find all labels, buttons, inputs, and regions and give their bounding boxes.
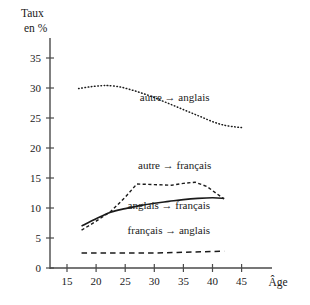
y-tick-label: 0 xyxy=(36,262,42,274)
y-tick-label: 35 xyxy=(30,52,42,64)
x-tick-label: 15 xyxy=(62,275,74,287)
x-tick-label: 20 xyxy=(91,275,103,287)
series-annotation-1: autre → anglais xyxy=(140,91,210,103)
chart-canvas: Taux en % 05101520253035 15202530354045 … xyxy=(0,0,310,305)
y-tick-label: 10 xyxy=(30,202,42,214)
x-tick-label: 30 xyxy=(149,275,161,287)
x-tick-label: 25 xyxy=(120,275,132,287)
x-tick-label: 35 xyxy=(178,275,190,287)
x-tick-label: 45 xyxy=(236,275,248,287)
annotation-group: autre → anglaisautre → françaisanglais →… xyxy=(128,91,212,236)
x-axis-title: Âge xyxy=(268,275,287,289)
y-axis-title-line2: en % xyxy=(24,22,48,34)
x-tick-label: 40 xyxy=(207,275,219,287)
series-annotation-4: français → anglais xyxy=(128,224,210,236)
series-line-4 xyxy=(82,251,225,253)
chart-figure: Taux en % 05101520253035 15202530354045 … xyxy=(0,0,310,305)
y-tick-label: 25 xyxy=(30,112,42,124)
y-tick-label: 5 xyxy=(36,232,42,244)
y-axis-title-group: Taux en % xyxy=(21,7,48,34)
y-tick-label: 20 xyxy=(30,142,42,154)
y-tick-label: 15 xyxy=(30,172,42,184)
y-axis-title-line1: Taux xyxy=(21,7,44,19)
series-annotation-3: anglais → français xyxy=(128,199,210,211)
series-annotation-2: autre → français xyxy=(138,159,211,171)
y-tick-label: 30 xyxy=(30,82,42,94)
